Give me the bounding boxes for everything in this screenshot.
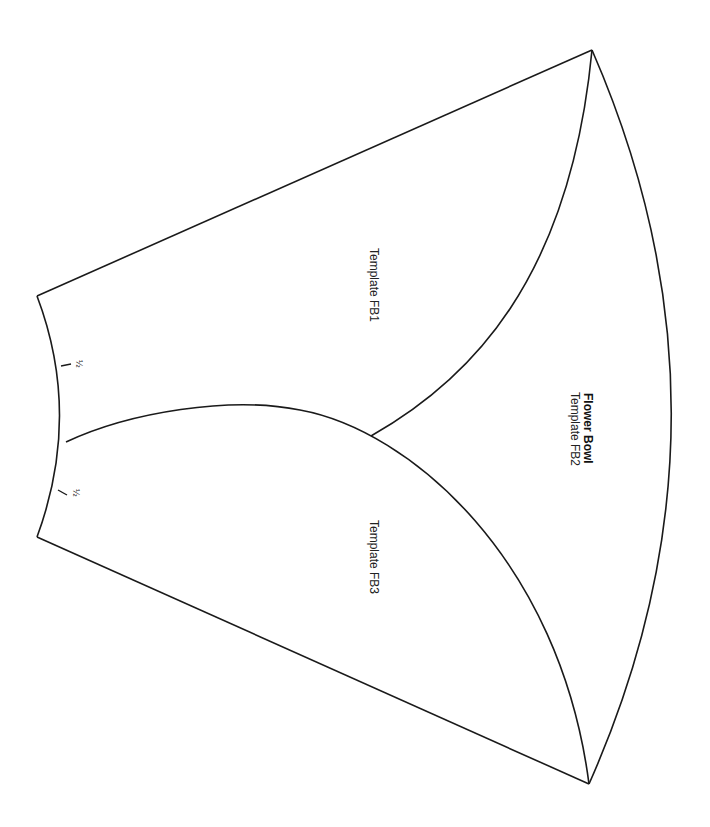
half-mark-label-lower: ½ (71, 489, 81, 497)
top-straight-edge (37, 50, 592, 296)
half-mark-tick-upper (61, 364, 71, 366)
template-fb1-label: Template FB1 (367, 248, 381, 322)
half-mark-tick-lower (58, 490, 67, 495)
outer-arc (589, 50, 671, 784)
inner-arc (37, 296, 60, 537)
flower-bowl-title: Flower Bowl (581, 393, 595, 464)
half-mark-label-upper: ½ (74, 360, 84, 368)
fb3-divider-curve (66, 405, 589, 784)
flower-bowl-template-diagram: Template FB1 Flower Bowl Template FB2 Te… (0, 0, 710, 827)
template-fb2-label: Template FB2 (568, 392, 582, 466)
template-outline-drawing (0, 0, 710, 827)
template-fb3-label: Template FB3 (367, 520, 381, 594)
fb1-fb2-divider-curve (371, 50, 592, 436)
bottom-straight-edge (37, 537, 589, 784)
